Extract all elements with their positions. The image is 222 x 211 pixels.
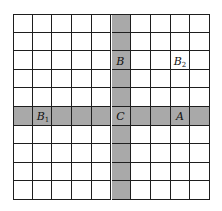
grid-cell <box>13 88 33 107</box>
grid-cell <box>112 144 132 163</box>
grid-cell <box>190 14 210 33</box>
grid-cell <box>190 181 210 200</box>
grid-cell <box>13 126 33 145</box>
grid-cell <box>171 163 191 182</box>
label-B1: B1 <box>37 111 50 124</box>
grid-cell <box>72 14 92 33</box>
grid-cell <box>52 107 72 126</box>
grid-cell <box>92 126 112 145</box>
grid-cell <box>171 33 191 52</box>
label-B2: B2 <box>174 56 187 69</box>
grid-cell <box>190 126 210 145</box>
grid-cell <box>112 14 132 33</box>
grid-cell <box>33 126 53 145</box>
grid-cell <box>131 144 151 163</box>
grid-cell <box>92 33 112 52</box>
grid-cell <box>190 51 210 70</box>
grid-cell <box>151 33 171 52</box>
grid-cell <box>131 181 151 200</box>
grid-cell <box>190 88 210 107</box>
grid-cell <box>52 126 72 145</box>
grid-cell <box>112 181 132 200</box>
grid-cell <box>13 33 33 52</box>
grid-cell <box>171 144 191 163</box>
grid-cell <box>112 33 132 52</box>
grid-cell <box>112 163 132 182</box>
grid-cell <box>52 88 72 107</box>
grid-cell <box>33 70 53 89</box>
grid-cell <box>33 51 53 70</box>
grid-cell <box>131 70 151 89</box>
grid-cell <box>52 181 72 200</box>
grid-cell <box>72 107 92 126</box>
grid-cell <box>171 88 191 107</box>
grid-cell <box>72 126 92 145</box>
grid-cell <box>52 70 72 89</box>
grid-cell <box>33 163 53 182</box>
grid-cell <box>190 163 210 182</box>
grid-cell <box>131 14 151 33</box>
grid-cell <box>112 88 132 107</box>
grid-cell <box>72 144 92 163</box>
grid-cell <box>131 126 151 145</box>
grid-cell <box>33 33 53 52</box>
grid-cell <box>131 51 151 70</box>
grid-cell <box>131 88 151 107</box>
grid-cell <box>92 144 112 163</box>
grid-cell <box>131 33 151 52</box>
grid-cell <box>151 88 171 107</box>
grid-cell <box>151 70 171 89</box>
grid-cell <box>151 163 171 182</box>
grid-cell <box>52 14 72 33</box>
grid-cell <box>92 107 112 126</box>
grid-cell <box>92 88 112 107</box>
grid-cell <box>72 70 92 89</box>
grid-cell <box>52 33 72 52</box>
grid-cell <box>112 70 132 89</box>
grid-diagram: B B2 B1 C A <box>13 14 210 200</box>
grid-cell <box>92 163 112 182</box>
grid-cell <box>112 126 132 145</box>
grid-cell <box>13 181 33 200</box>
grid-cell <box>92 14 112 33</box>
grid-cell <box>33 14 53 33</box>
grid-cell <box>131 107 151 126</box>
grid-cell <box>151 51 171 70</box>
grid-cell <box>92 70 112 89</box>
grid-cell <box>52 51 72 70</box>
label-B: B <box>116 56 124 69</box>
grid-cell <box>72 51 92 70</box>
grid-cell <box>52 144 72 163</box>
grid-cell <box>72 181 92 200</box>
grid-cell <box>151 181 171 200</box>
label-A: A <box>176 111 184 124</box>
grid-cell <box>151 14 171 33</box>
grid-cell <box>72 88 92 107</box>
grid-cell <box>13 70 33 89</box>
grid-cell <box>151 107 171 126</box>
grid-cell <box>13 51 33 70</box>
grid-cell <box>131 163 151 182</box>
grid-cell <box>171 70 191 89</box>
grid-cell <box>13 144 33 163</box>
grid-cell <box>72 33 92 52</box>
grid-cell <box>151 144 171 163</box>
label-C: C <box>116 111 124 124</box>
grid-cell <box>92 181 112 200</box>
grid-cell <box>190 33 210 52</box>
grid-cell <box>171 181 191 200</box>
grid-cell <box>33 88 53 107</box>
grid-cell <box>13 107 33 126</box>
grid-cell <box>190 107 210 126</box>
grid-cell <box>190 70 210 89</box>
grid-cell <box>92 51 112 70</box>
grid-cell <box>151 126 171 145</box>
grid-cell <box>171 14 191 33</box>
grid-cell <box>52 163 72 182</box>
grid-cell <box>171 126 191 145</box>
grid-cell <box>190 144 210 163</box>
grid-cell <box>33 181 53 200</box>
grid-cell <box>13 14 33 33</box>
grid-cell <box>13 163 33 182</box>
grid-cell <box>72 163 92 182</box>
